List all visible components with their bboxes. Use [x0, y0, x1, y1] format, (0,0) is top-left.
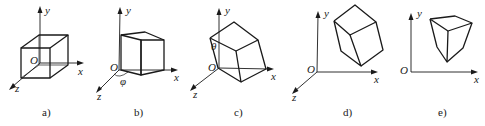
shape-top-face: [430, 16, 472, 31]
panel-b: φ y x z O b): [96, 4, 179, 119]
x-axis-label: x: [173, 71, 179, 83]
y-axis: [317, 15, 318, 72]
cube-top-face: [210, 22, 258, 51]
y-axis-label: y: [125, 4, 131, 16]
y-axis-label: y: [416, 7, 422, 19]
caption-a: a): [42, 106, 51, 119]
z-axis-label: z: [14, 82, 20, 94]
y-axis-label: y: [323, 7, 329, 19]
cube-left-face: [334, 21, 361, 66]
y-axis-arrow-icon: [118, 7, 123, 14]
theta-label: θ: [211, 40, 217, 52]
cube-left-face: [121, 35, 141, 75]
x-axis-label: x: [77, 65, 83, 77]
panel-e: y x O e): [400, 7, 479, 119]
z-axis-label: z: [96, 90, 102, 102]
figure-canvas: y x z O a) φ y x z O b) θ: [0, 0, 485, 126]
cube-top-face: [21, 35, 68, 48]
x-axis-label: x: [270, 70, 276, 82]
panel-a: y x z O a): [9, 4, 84, 119]
origin-label: O: [30, 54, 38, 66]
x-axis-label: x: [473, 73, 479, 85]
y-axis-arrow-icon: [217, 8, 222, 15]
origin-label: O: [208, 61, 216, 73]
caption-e: e): [438, 106, 447, 119]
panel-c: θ y x z O c): [190, 4, 276, 119]
x-axis: [219, 68, 270, 69]
cube-right-edges: [361, 22, 383, 66]
y-axis-arrow-icon: [409, 13, 414, 20]
origin-label: O: [110, 61, 118, 73]
origin-label: O: [400, 64, 408, 76]
x-axis-label: x: [373, 73, 379, 85]
panel-d: y x z O d): [291, 5, 383, 119]
phi-label: φ: [120, 75, 126, 87]
z-axis-label: z: [192, 88, 198, 100]
y-axis: [119, 11, 120, 70]
y-axis-arrow-icon: [38, 6, 43, 13]
caption-c: c): [234, 106, 243, 119]
caption-d: d): [343, 106, 353, 119]
y-axis-label: y: [44, 4, 50, 16]
cube-top-face: [334, 5, 376, 35]
origin-label: O: [307, 63, 315, 75]
caption-b: b): [134, 106, 144, 119]
z-axis-label: z: [291, 91, 297, 103]
y-axis-arrow-icon: [316, 11, 321, 18]
z-axis: [99, 70, 119, 90]
y-axis-label: y: [224, 4, 230, 16]
shape-right-edges: [447, 23, 472, 62]
